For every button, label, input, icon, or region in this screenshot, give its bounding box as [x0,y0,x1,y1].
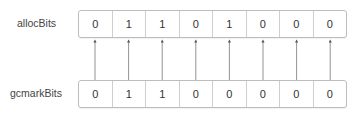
gcmark-bit-cell: 1 [113,81,147,107]
gcmark-bit-cell: 0 [280,81,314,107]
gcmark-bits-row: 0 1 1 0 0 0 0 0 [78,80,347,108]
gcmark-bit-cell: 0 [247,81,281,107]
gcmark-bit-cell: 0 [180,81,214,107]
arrow-up-icon [95,41,330,80]
gcmark-bit-cell: 0 [314,81,347,107]
gcmark-bit-cell: 1 [146,81,180,107]
gcmark-bit-cell: 0 [79,81,113,107]
gcmark-bits-label: gcmarkBits [10,87,62,99]
gcmark-bit-cell: 0 [213,81,247,107]
